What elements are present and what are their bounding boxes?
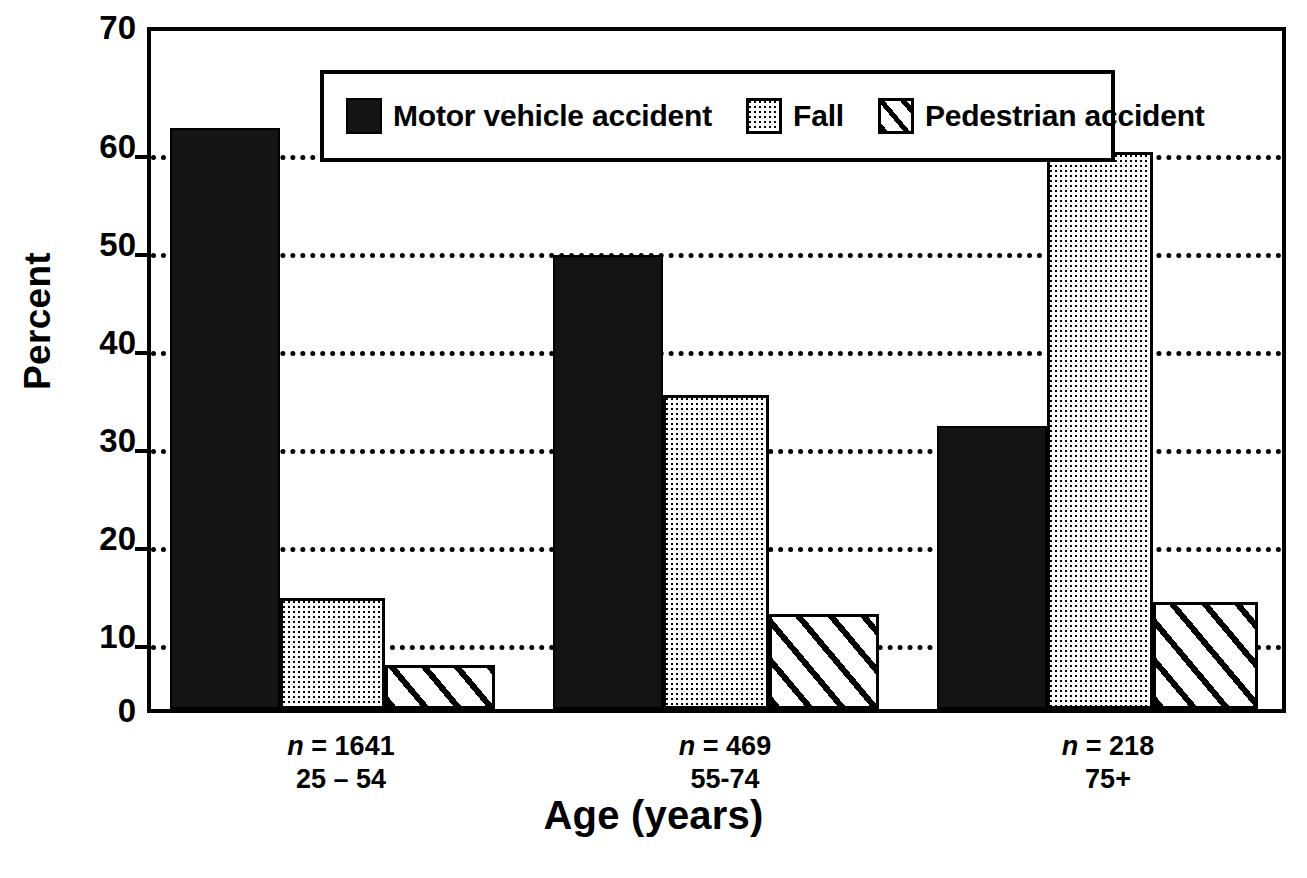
- y-tick-label-50: 50: [56, 228, 136, 261]
- group-label-75-plus: n = 218 75+: [948, 730, 1268, 796]
- bar-g3-pedestrian-accident: [1153, 602, 1258, 709]
- bar-g1-motor-vehicle-accident: [170, 128, 280, 709]
- group-count-value-25-54: = 1641: [304, 731, 395, 761]
- bar-g2-fall: [663, 395, 769, 709]
- y-axis-tick-labels: 70 60 50 40 30 20 10 0: [48, 0, 136, 878]
- group-range-25-54: 25 – 54: [181, 763, 501, 796]
- bar-g2-motor-vehicle-accident: [553, 255, 663, 709]
- group-count-value-55-74: = 469: [695, 731, 771, 761]
- y-tick-label-40: 40: [56, 326, 136, 359]
- legend-swatch-hatched-icon: [878, 98, 914, 134]
- bar-g1-fall: [280, 598, 385, 709]
- legend-swatch-dotted-icon: [746, 98, 782, 134]
- group-label-25-54: n = 1641 25 – 54: [181, 730, 501, 796]
- bar-g3-fall: [1047, 152, 1153, 709]
- legend-item-motor-vehicle-accident: Motor vehicle accident: [346, 98, 712, 134]
- legend-item-fall: Fall: [746, 98, 844, 134]
- bar-g2-pedestrian-accident: [769, 614, 879, 709]
- bar-g1-pedestrian-accident: [385, 665, 495, 709]
- group-count-55-74: n = 469: [565, 730, 885, 763]
- legend: Motor vehicle accident Fall Pedestrian a…: [320, 70, 1115, 162]
- bar-g3-motor-vehicle-accident: [937, 426, 1047, 709]
- group-range-55-74: 55-74: [565, 763, 885, 796]
- group-range-75-plus: 75+: [948, 763, 1268, 796]
- y-tick-label-30: 30: [56, 424, 136, 457]
- y-tick-label-60: 60: [56, 130, 136, 163]
- legend-label-fall: Fall: [793, 99, 844, 133]
- y-tick-label-70: 70: [56, 11, 136, 44]
- y-tick-label-0: 0: [56, 694, 136, 727]
- y-tick-label-20: 20: [56, 522, 136, 555]
- group-count-75-plus: n = 218: [948, 730, 1268, 763]
- y-tick-label-10: 10: [56, 620, 136, 653]
- bar-chart: Percent 70 60 50 40 30 20 10 0: [0, 0, 1307, 878]
- legend-item-pedestrian-accident: Pedestrian accident: [878, 98, 1205, 134]
- group-count-25-54: n = 1641: [181, 730, 501, 763]
- group-count-value-75-plus: = 218: [1078, 731, 1154, 761]
- x-axis-title: Age (years): [0, 793, 1307, 838]
- legend-swatch-solid-icon: [346, 98, 382, 134]
- legend-label-pedestrian-accident: Pedestrian accident: [925, 99, 1205, 133]
- legend-label-motor-vehicle-accident: Motor vehicle accident: [393, 99, 712, 133]
- group-label-55-74: n = 469 55-74: [565, 730, 885, 796]
